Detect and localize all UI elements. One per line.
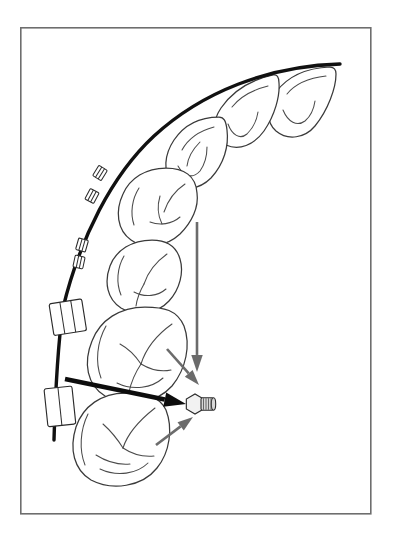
arrow-head xyxy=(163,392,186,406)
tube-body xyxy=(49,299,87,336)
bracket-body xyxy=(85,188,99,203)
dental-diagram-svg xyxy=(0,0,398,542)
arrow-head xyxy=(191,355,202,372)
mini-implant-screw[interactable] xyxy=(186,394,215,414)
figure-root xyxy=(0,0,398,542)
bracket-first-premolar[interactable] xyxy=(85,188,99,203)
tooth-second-premolar xyxy=(107,240,181,313)
molar-tube-second-molar[interactable] xyxy=(44,386,76,427)
tooth-first-premolar xyxy=(118,168,197,246)
molar-tube-first-molar[interactable] xyxy=(49,299,87,336)
tooth-outline xyxy=(73,393,170,486)
force-arrow-vertical xyxy=(191,222,202,372)
tooth-second-molar xyxy=(73,393,170,486)
bracket-body xyxy=(73,255,85,269)
bracket-second-premolar[interactable] xyxy=(76,238,89,252)
bracket-body xyxy=(93,165,108,180)
bracket-canine[interactable] xyxy=(93,165,108,180)
tubes-layer xyxy=(44,299,87,427)
teeth-layer xyxy=(73,67,336,486)
screw-tip xyxy=(211,398,215,410)
bracket-lower[interactable] xyxy=(73,255,85,269)
mini-implant-layer xyxy=(186,394,215,414)
